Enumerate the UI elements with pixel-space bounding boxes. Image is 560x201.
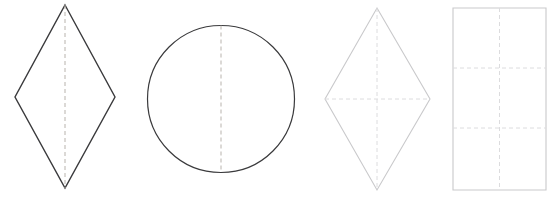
shape-group-rhombus-light: [325, 8, 430, 190]
shape-group-rectangle-light: [453, 8, 546, 190]
shapes-diagram: [0, 0, 560, 201]
figure-canvas: [0, 0, 560, 201]
shape-group-rhombus-dark: [15, 5, 115, 188]
shape-group-circle-dark: [148, 26, 295, 173]
